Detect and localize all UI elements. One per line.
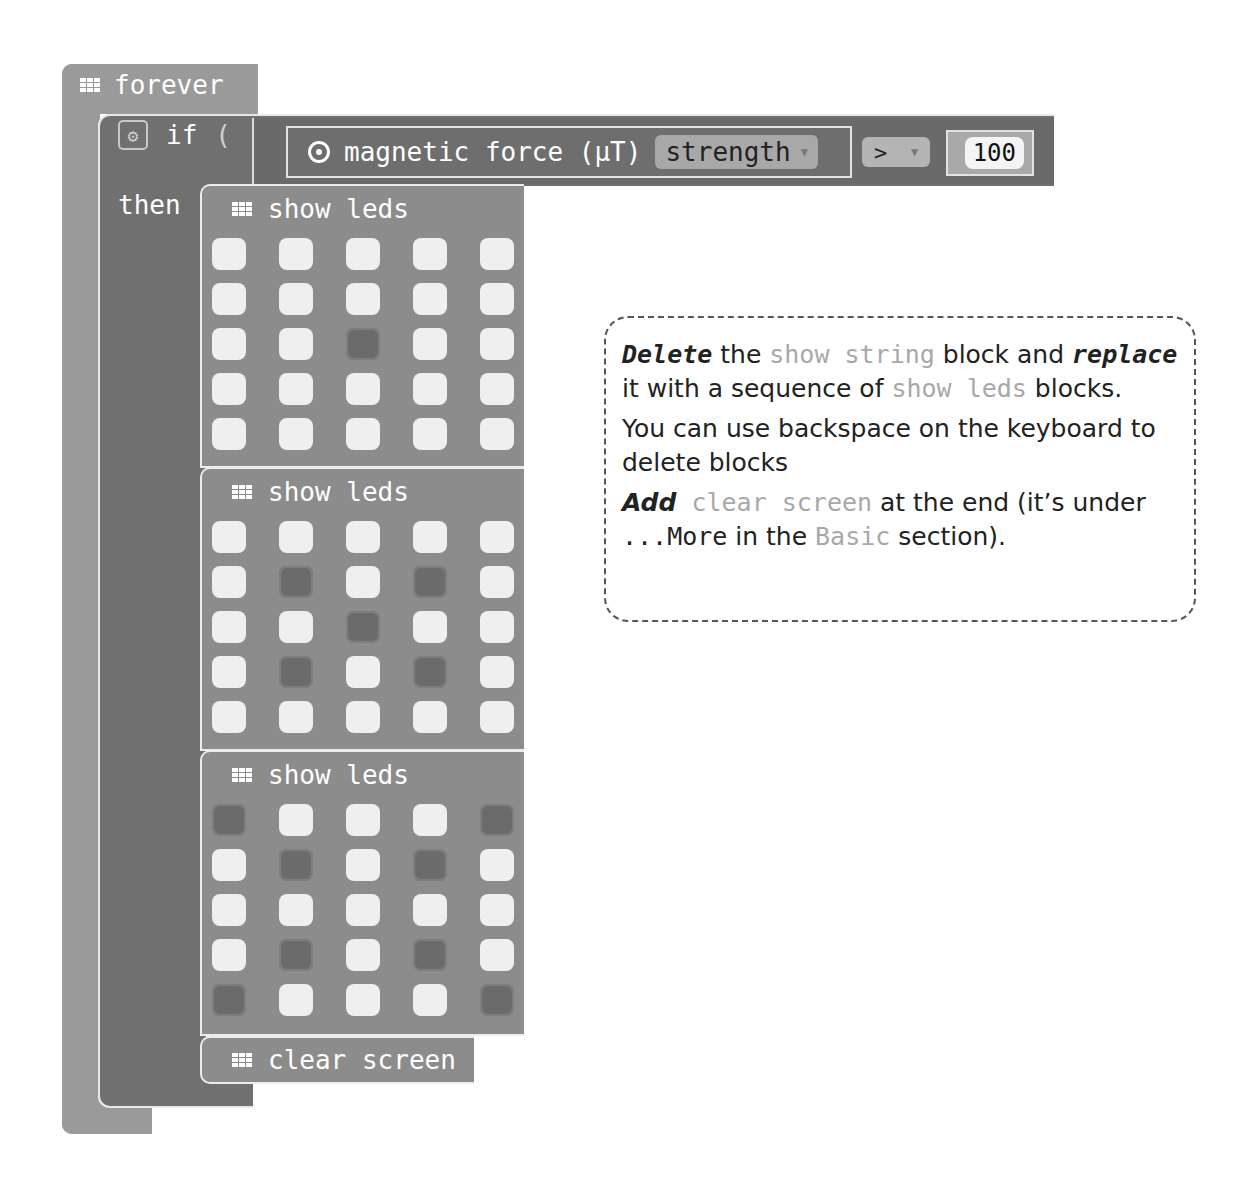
led-0-2[interactable] [346,804,380,836]
led-0-3[interactable] [413,238,447,270]
led-4-0[interactable] [212,701,246,733]
led-1-4[interactable] [480,849,514,881]
led-1-3[interactable] [413,566,447,598]
led-3-1[interactable] [279,373,313,405]
led-4-3[interactable] [413,701,447,733]
led-4-4[interactable] [480,984,514,1016]
operator-dropdown[interactable]: > ▼ [862,137,930,167]
led-1-3[interactable] [413,849,447,881]
show-leds-block[interactable]: show leds [200,184,524,468]
led-2-3[interactable] [413,611,447,643]
led-3-0[interactable] [212,373,246,405]
led-3-3[interactable] [413,939,447,971]
if-block[interactable] [98,114,206,1108]
led-4-2[interactable] [346,701,380,733]
led-4-1[interactable] [279,701,313,733]
led-4-1[interactable] [279,984,313,1016]
led-3-4[interactable] [480,656,514,688]
led-0-1[interactable] [279,521,313,553]
led-1-1[interactable] [279,566,313,598]
led-1-2[interactable] [346,566,380,598]
show-leds-block[interactable]: show leds [200,467,524,751]
led-2-0[interactable] [212,894,246,926]
led-4-2[interactable] [346,418,380,450]
led-2-4[interactable] [480,611,514,643]
led-0-3[interactable] [413,804,447,836]
led-2-4[interactable] [480,894,514,926]
number-block[interactable]: 100 [946,130,1034,176]
led-4-2[interactable] [346,984,380,1016]
then-label: then [118,190,181,220]
led-1-4[interactable] [480,566,514,598]
led-2-4[interactable] [480,328,514,360]
chevron-down-icon: ▼ [801,145,808,159]
led-3-0[interactable] [212,939,246,971]
led-4-0[interactable] [212,984,246,1016]
emphasis-add: Add [622,488,676,517]
grid-icon [80,78,100,92]
led-1-1[interactable] [279,283,313,315]
led-3-3[interactable] [413,656,447,688]
led-2-1[interactable] [279,611,313,643]
led-0-3[interactable] [413,521,447,553]
led-2-2[interactable] [346,894,380,926]
led-3-4[interactable] [480,373,514,405]
led-0-4[interactable] [480,804,514,836]
led-2-1[interactable] [279,328,313,360]
led-0-0[interactable] [212,804,246,836]
led-3-1[interactable] [279,939,313,971]
note-paragraph-2: You can use backspace on the keyboard to… [622,412,1178,480]
forever-label-row: forever [80,70,224,100]
led-0-1[interactable] [279,804,313,836]
led-2-3[interactable] [413,894,447,926]
led-3-3[interactable] [413,373,447,405]
led-3-2[interactable] [346,373,380,405]
led-1-2[interactable] [346,849,380,881]
code-show-string: show string [769,340,935,369]
led-0-4[interactable] [480,521,514,553]
led-4-3[interactable] [413,418,447,450]
led-1-1[interactable] [279,849,313,881]
axis-dropdown[interactable]: strength ▼ [655,135,817,169]
note-text: section). [890,522,1006,551]
led-0-0[interactable] [212,238,246,270]
led-4-4[interactable] [480,418,514,450]
led-2-2[interactable] [346,328,380,360]
gear-icon[interactable]: ⚙ [118,120,148,150]
note-text: block and [935,340,1072,369]
magnetic-force-block[interactable]: magnetic force (µT) strength ▼ [286,126,852,178]
led-0-0[interactable] [212,521,246,553]
led-2-2[interactable] [346,611,380,643]
led-1-3[interactable] [413,283,447,315]
compare-value-input[interactable]: 100 [965,137,1024,169]
note-paragraph-3: Add clear screen at the end (it’s under … [622,486,1178,554]
led-2-1[interactable] [279,894,313,926]
led-1-2[interactable] [346,283,380,315]
led-2-3[interactable] [413,328,447,360]
led-4-3[interactable] [413,984,447,1016]
led-3-0[interactable] [212,656,246,688]
instruction-note: Delete the show string block and replace… [604,316,1196,622]
clear-screen-block[interactable]: clear screen [200,1036,474,1084]
led-0-2[interactable] [346,521,380,553]
led-4-1[interactable] [279,418,313,450]
led-4-0[interactable] [212,418,246,450]
led-1-0[interactable] [212,566,246,598]
led-3-4[interactable] [480,939,514,971]
led-4-4[interactable] [480,701,514,733]
show-leds-title: show leds [232,760,409,790]
forever-block[interactable] [62,64,100,1134]
led-3-2[interactable] [346,939,380,971]
led-0-2[interactable] [346,238,380,270]
led-3-1[interactable] [279,656,313,688]
led-1-0[interactable] [212,849,246,881]
if-label-row: ⚙ if ( [118,120,231,150]
led-0-4[interactable] [480,238,514,270]
led-2-0[interactable] [212,328,246,360]
led-1-0[interactable] [212,283,246,315]
led-1-4[interactable] [480,283,514,315]
show-leds-block[interactable]: show leds [200,750,524,1036]
led-2-0[interactable] [212,611,246,643]
led-0-1[interactable] [279,238,313,270]
led-3-2[interactable] [346,656,380,688]
